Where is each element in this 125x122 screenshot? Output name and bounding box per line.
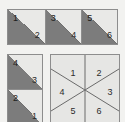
six-sector-square: 1 2 3 4 5 6 <box>50 54 120 122</box>
triangle-label-upper: 4 <box>13 59 18 68</box>
left-square-stack: 4 3 2 1 <box>7 54 43 122</box>
triangle-label-lower: 3 <box>32 76 37 85</box>
triangle-label-upper: 2 <box>13 94 18 103</box>
sector-label: 4 <box>59 88 64 97</box>
split-square: 5 6 <box>81 10 117 44</box>
triangle-label-upper: 5 <box>87 14 92 23</box>
sector-label: 3 <box>107 88 112 97</box>
split-square: 1 2 <box>8 10 45 44</box>
sector-label: 6 <box>96 107 101 116</box>
top-square-strip: 1 2 3 4 5 6 <box>7 9 118 45</box>
split-square: 3 4 <box>45 10 82 44</box>
triangle-label-lower: 4 <box>71 31 76 40</box>
triangle-label-lower: 1 <box>32 112 37 121</box>
figure-canvas: 1 2 3 4 5 6 4 3 2 1 <box>0 0 125 122</box>
triangle-label-lower: 2 <box>35 31 40 40</box>
sector-label: 1 <box>70 69 75 78</box>
triangle-label-upper: 3 <box>51 14 56 23</box>
triangle-label-upper: 1 <box>13 14 18 23</box>
split-square: 2 1 <box>8 89 42 122</box>
sector-label: 2 <box>96 69 101 78</box>
triangle-label-lower: 6 <box>107 31 112 40</box>
split-square: 4 3 <box>8 55 42 89</box>
sector-label: 5 <box>70 107 75 116</box>
